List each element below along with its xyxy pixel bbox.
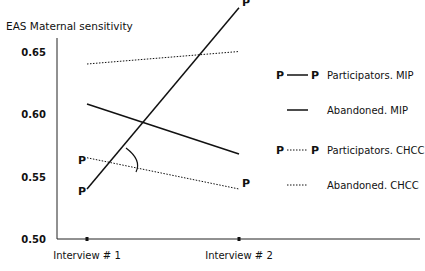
y-tick-labels: 0.500.550.600.65 xyxy=(21,47,46,246)
series-marker: P xyxy=(78,154,86,167)
legend-label: Abandoned. MIP xyxy=(327,105,408,116)
legend-marker: P xyxy=(276,144,284,157)
series-marker: P xyxy=(78,185,86,198)
series-line xyxy=(87,104,239,154)
legend-label: Participators. MIP xyxy=(327,70,414,81)
legend-label: Participators. CHCC xyxy=(327,145,424,156)
series-line xyxy=(87,158,239,189)
series-marker: P xyxy=(242,177,250,190)
x-tick-mark xyxy=(86,237,89,241)
angle-arc-annotation xyxy=(126,148,138,172)
legend: PPParticipators. MIPAbandoned. MIPPPPart… xyxy=(276,69,424,191)
legend-marker: P xyxy=(276,69,284,82)
line-chart: EAS Maternal sensitivity 0.500.550.600.6… xyxy=(0,0,425,271)
x-tick-label: Interview # 2 xyxy=(205,250,273,261)
y-tick-label: 0.60 xyxy=(21,109,46,120)
y-axis-label: EAS Maternal sensitivity xyxy=(6,20,133,32)
legend-label: Abandoned. CHCC xyxy=(327,180,419,191)
y-tick-label: 0.50 xyxy=(21,234,46,245)
x-tick-label: Interview # 1 xyxy=(53,250,121,261)
series-line xyxy=(87,8,239,189)
legend-marker: P xyxy=(311,144,319,157)
series-line xyxy=(87,52,239,65)
y-tick-label: 0.55 xyxy=(21,172,46,183)
y-tick-label: 0.65 xyxy=(21,47,46,58)
series-marker: P xyxy=(242,0,250,9)
x-tick-mark xyxy=(238,237,241,241)
x-tick-labels: Interview # 1Interview # 2 xyxy=(53,237,273,261)
legend-marker: P xyxy=(311,69,319,82)
